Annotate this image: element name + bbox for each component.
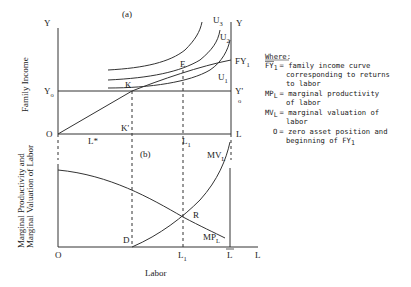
y0-label-right: Y' — [235, 86, 243, 96]
u2-label: U2 — [220, 32, 230, 44]
fy1-label: FY1 — [235, 56, 250, 68]
mv-label: MVL — [207, 150, 226, 162]
y-axis-label-right: Y — [236, 18, 243, 28]
legend-entry-origin: O= zero asset position and — [273, 127, 388, 136]
k-prime-label: K' — [121, 123, 129, 133]
y0-label-right-sub: o — [238, 97, 241, 104]
y-axis-label-left: Y — [44, 18, 51, 28]
legend-fy1-line3: to labor — [286, 79, 321, 88]
legend-fy1-line2: corresponding to returns — [286, 70, 390, 79]
point-d-label: D — [123, 235, 130, 245]
y0-label-left: Yo — [44, 86, 54, 98]
u3-label: U3 — [213, 15, 223, 27]
family-income-axis-title: Family Income — [20, 57, 30, 112]
legend-mp-line2: of labor — [286, 98, 321, 107]
panel-b-labels: (b) O MVL MPL R D L1 L L Labor Marginal … — [16, 145, 261, 278]
l-star-label: L* — [88, 136, 98, 146]
panel-a-tag: (a) — [122, 9, 132, 19]
legend-entry-mv: MVL= marginal valuation of — [265, 108, 379, 119]
point-k-label: K — [125, 80, 132, 90]
point-e-label: E — [180, 59, 186, 69]
legend: Where: FY1= family income curve correspo… — [265, 52, 390, 147]
panel-b — [58, 142, 258, 247]
point-r-label: R — [193, 210, 199, 220]
labor-income-diagram: Y Y (a) O Yo Y' o FY1 U1 U2 U3 K E K' L*… — [0, 0, 411, 287]
l-bar-label: L — [227, 250, 233, 260]
legend-entry-mp: MPL= marginal productivity — [265, 89, 380, 100]
mp-mv-axis-title-line2: Marginal Valuation of Labor — [25, 145, 35, 248]
mp-curve — [58, 170, 225, 238]
l1-bottom-label: L1 — [178, 250, 187, 262]
origin-label-bottom: O — [55, 250, 62, 260]
l-end-label: L — [255, 250, 261, 260]
legend-title: Where: — [265, 52, 291, 61]
u3-curve — [108, 22, 202, 70]
u1-label: U1 — [218, 72, 228, 84]
panel-a-labels: Y Y (a) O Yo Y' o FY1 U1 U2 U3 K E K' L*… — [20, 9, 250, 148]
l-right-label: L — [236, 129, 242, 139]
panel-b-tag: (b) — [140, 149, 151, 159]
l1-top-label: L1 — [182, 136, 191, 148]
legend-origin-line2: beginning of FY1 — [286, 136, 355, 147]
origin-label-top: O — [46, 129, 53, 139]
panel-a — [58, 22, 231, 247]
labor-axis-title: Labor — [145, 268, 167, 278]
legend-mv-line2: labor — [286, 117, 308, 126]
u2-curve — [108, 30, 220, 80]
